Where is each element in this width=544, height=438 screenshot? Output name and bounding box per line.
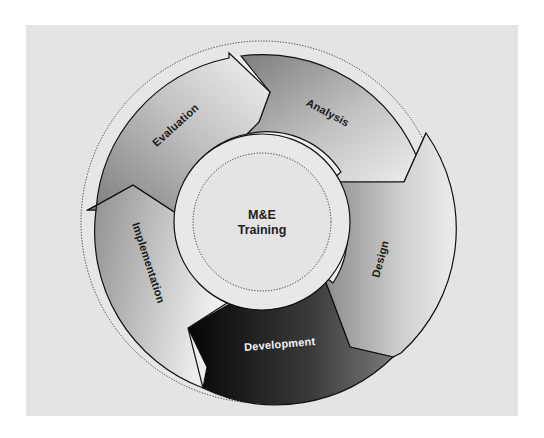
center-label-line1: M&E <box>248 208 276 222</box>
cycle-diagram: M&E Training Analysis Design Development… <box>0 0 544 438</box>
center-label-line2: Training <box>238 223 287 237</box>
inner-dotted-ring <box>193 153 331 291</box>
